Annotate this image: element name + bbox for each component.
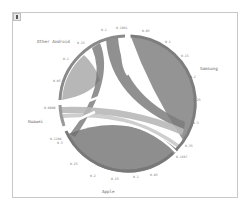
group-label-huawei: Huawei xyxy=(28,119,44,124)
tick-label: 0.2 xyxy=(190,75,196,79)
tick-label: 0.3 xyxy=(193,121,199,125)
tick-label: 0.2 xyxy=(90,174,96,178)
tick-label: 0.25 xyxy=(193,98,201,102)
tick-label: 0.15 xyxy=(77,41,85,45)
tick-label: 0.05 xyxy=(142,29,150,33)
tick-label: 0.05 xyxy=(150,173,158,177)
gap-label-bottom-right: 0.1667 xyxy=(176,155,188,159)
tick-label: 0.1 xyxy=(101,28,107,32)
chord-apple-apple[interactable] xyxy=(68,125,178,173)
tick-label: 0.1 xyxy=(63,57,69,61)
tick-label: 0.15 xyxy=(181,54,189,58)
tick-label: 0.15 xyxy=(111,177,119,181)
group-label-other-android: Other Android xyxy=(37,39,70,44)
gap-label-left: 0.0808 xyxy=(44,106,56,110)
tick-label: 0.3 xyxy=(57,141,63,145)
tick-label: 0.1 xyxy=(165,40,171,44)
tick-label: 0.25 xyxy=(70,162,78,166)
group-label-apple: Apple xyxy=(102,189,115,194)
group-label-samsung: Samsung xyxy=(200,66,218,71)
gap-label-left-bottom: 0.1104 xyxy=(50,137,62,141)
tick-label: 0.35 xyxy=(185,144,193,148)
gap-label-top: 0.1961 xyxy=(116,26,128,30)
tick-label: 0.1 xyxy=(133,175,139,179)
chord-diagram: 0.1 0.1961 0.05 0.1 0.15 0.2 0.25 0.3 0.… xyxy=(0,0,245,206)
tick-label: 0.05 xyxy=(53,79,61,83)
